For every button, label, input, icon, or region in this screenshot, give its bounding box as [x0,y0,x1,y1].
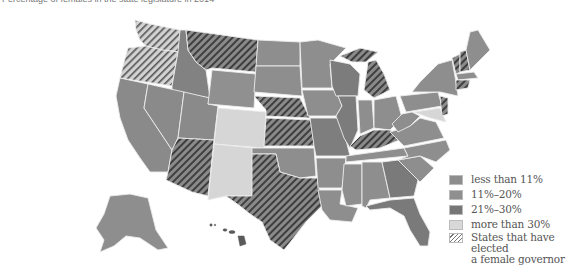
state-alaska [96,194,168,252]
hatch-swatch-icon [449,233,463,243]
state-michigan-upper [340,48,378,62]
legend-label: 21%–30% [471,204,522,215]
legend-swatch [449,220,463,230]
state-maine [466,30,490,70]
state-michigan-lower [364,60,390,98]
state-connecticut [456,80,470,90]
state-massachusetts [456,72,478,80]
state-arizona [166,138,214,196]
legend-label: 11%–20% [471,189,522,200]
state-new-york [412,60,458,96]
legend-item-11-to-20: 11%–20% [449,187,577,202]
state-new-mexico [208,144,254,200]
legend-item-female-governor: States that have elected a female govern… [449,232,577,260]
legend-item-21-to-30: 21%–30% [449,202,577,217]
state-indiana [358,100,374,134]
state-wisconsin [330,60,360,96]
state-hawaii [210,224,246,246]
state-florida [366,198,430,246]
map-legend: less than 11% 11%–20% 21%–30% more than … [449,172,577,260]
legend-item-less-than-11: less than 11% [449,172,577,187]
state-arkansas [316,158,346,188]
legend-item-more-than-30: more than 30% [449,217,577,232]
state-mississippi [342,164,362,206]
state-colorado [214,108,266,148]
state-wyoming [208,70,256,108]
state-north-dakota [256,40,300,66]
legend-label-line1: States that have elected [471,231,555,254]
legend-swatch [449,175,463,185]
legend-swatch [449,190,463,200]
state-south-dakota [254,66,302,96]
state-kansas [264,118,314,146]
legend-swatch [449,205,463,215]
legend-label: more than 30% [471,219,550,230]
legend-label: less than 11% [471,174,543,185]
legend-label: States that have elected a female govern… [471,232,577,265]
legend-label-line2: a female governor [471,253,565,265]
